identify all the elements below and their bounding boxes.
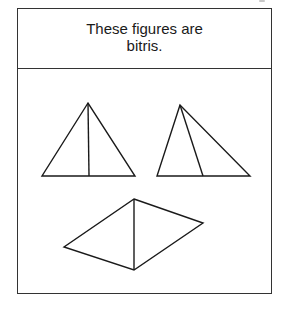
figure-rhombus — [64, 199, 203, 270]
figure-scalene-triangle — [157, 105, 250, 176]
triangle-outline — [157, 105, 250, 176]
median-line — [88, 103, 89, 176]
cevian-line — [180, 105, 203, 176]
figure-isosceles-triangle — [42, 103, 135, 176]
figures-canvas — [0, 0, 286, 311]
